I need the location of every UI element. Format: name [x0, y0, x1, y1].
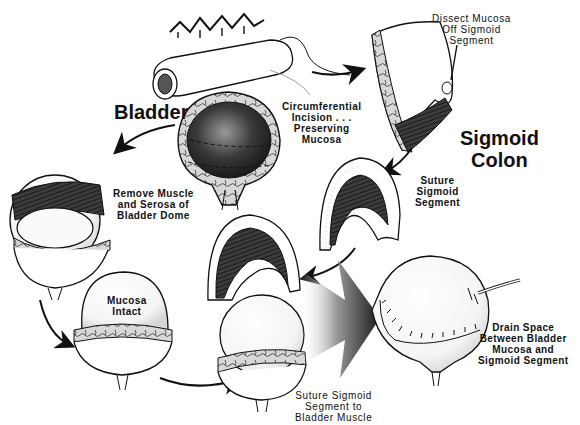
arrow-colon-to-sigmoid: [312, 70, 360, 75]
label-bladder: Bladder: [114, 101, 188, 123]
mucosa-intact-illustration: [74, 272, 172, 390]
surgical-diagram: Bladder Sigmoid Colon Dissect Mucosa Off…: [0, 0, 580, 425]
label-drain-space: Drain Space Between Bladder Mucosa and S…: [478, 322, 568, 366]
arrow-bladder-to-dome: [118, 125, 175, 150]
label-circumferential-incision: Circumferential Incision . . . Preservin…: [282, 101, 361, 145]
arrow-dome-to-mucosa: [40, 300, 70, 345]
colon-segment-illustration: [153, 14, 350, 99]
label-mucosa-intact: Mucosa Intact: [107, 295, 147, 317]
label-suture-to-bladder-muscle: Suture Sigmoid Segment to Bladder Muscle: [295, 390, 372, 423]
final-bladder-illustration: [372, 256, 520, 386]
label-dissect-mucosa: Dissect Mucosa Off Sigmoid Segment: [432, 13, 511, 46]
label-remove-muscle: Remove Muscle and Serosa of Bladder Dome: [113, 188, 194, 221]
label-sigmoid-colon: Sigmoid Colon: [460, 127, 539, 171]
label-suture-sigmoid-segment: Suture Sigmoid Segment: [415, 175, 460, 208]
cap-onto-bladder-illustration: [208, 215, 306, 412]
sutured-sigmoid-cap-illustration: [320, 158, 400, 250]
big-arrow-to-final: [300, 260, 380, 378]
